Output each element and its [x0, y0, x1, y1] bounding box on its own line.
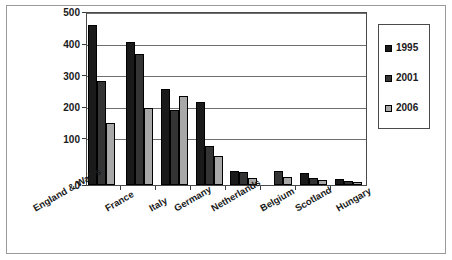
bar-group — [261, 13, 296, 185]
legend-label: 2001 — [396, 73, 418, 83]
x-tick-label-scotland: Scotland — [293, 184, 333, 214]
legend-label: 2006 — [396, 103, 418, 113]
chart-legend: 1995 2001 2006 — [378, 24, 430, 129]
bar — [283, 177, 292, 185]
y-axis-labels: 500 400 300 200 100 0 — [50, 12, 80, 186]
x-tick-label-germany: Germany — [172, 183, 213, 213]
x-tick-label-italy: Italy — [147, 194, 169, 213]
bars-layer — [87, 13, 366, 185]
bar — [230, 171, 239, 185]
bar — [353, 182, 362, 185]
bar — [135, 54, 144, 185]
legend-entry-2001: 2001 — [385, 63, 429, 93]
y-tick-label: 200 — [52, 103, 80, 113]
legend-swatch-icon — [385, 75, 392, 82]
bar — [309, 178, 318, 185]
x-axis-labels: England & Wales France Italy Germany Net… — [0, 186, 452, 260]
legend-label: 1995 — [396, 43, 418, 53]
legend-swatch-icon — [385, 45, 392, 52]
bar — [126, 42, 135, 185]
bar-group — [192, 13, 227, 185]
legend-entry-1995: 1995 — [385, 33, 429, 63]
bar-group — [296, 13, 331, 185]
x-tick-label-france: France — [103, 188, 135, 213]
bar — [274, 171, 283, 185]
y-tick-label: 100 — [52, 135, 80, 145]
y-tick-label: 300 — [52, 72, 80, 82]
y-tick-label: 400 — [52, 40, 80, 50]
x-tick-label-hungary: Hungary — [334, 185, 373, 214]
bar — [179, 96, 188, 185]
bar — [335, 179, 344, 185]
bar — [106, 123, 115, 185]
bar — [144, 108, 153, 185]
bar — [344, 181, 353, 185]
chart-figure: 500 400 300 200 100 0 England & Wales Fr… — [0, 0, 452, 260]
bar-group — [157, 13, 192, 185]
bar — [196, 102, 205, 185]
bar — [214, 156, 223, 185]
bar — [205, 146, 214, 185]
bar-group — [331, 13, 366, 185]
plot-area — [86, 12, 367, 186]
legend-swatch-icon — [385, 105, 392, 112]
bar — [170, 110, 179, 185]
bar — [88, 25, 97, 185]
bar-group — [226, 13, 261, 185]
bar-group — [122, 13, 157, 185]
bar — [161, 89, 170, 185]
bar-group — [87, 13, 122, 185]
bar — [300, 173, 309, 185]
y-tick-label: 500 — [52, 8, 80, 18]
legend-entry-2006: 2006 — [385, 93, 429, 123]
x-tick-label-belgium: Belgium — [258, 185, 296, 213]
